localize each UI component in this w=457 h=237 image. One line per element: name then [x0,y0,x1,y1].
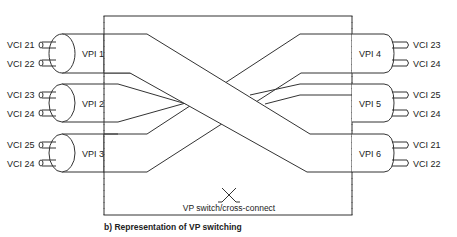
right-vci-label: VCI 21 [413,140,441,150]
left-vci-label: VCI 23 [7,90,35,100]
left-vci-label: VCI 25 [7,140,35,150]
cross-connect-x-icon [218,188,240,202]
right-vci-label: VCI 23 [413,40,441,50]
diagram-caption: b) Representation of VP switching [104,222,242,232]
left-vci-label: VCI 24 [7,159,35,169]
vpi-label: VPI 5 [359,99,381,109]
vp-switching-diagram: VCI 21 VCI 22 VCI 23 VCI 24 VCI 25 VCI 2… [0,0,457,237]
vpi-label: VPI 1 [82,49,104,59]
vpi-label: VPI 4 [359,49,381,59]
vpi-label: VPI 6 [359,149,381,159]
right-vci-label: VCI 25 [413,90,441,100]
right-vci-label: VCI 24 [413,109,441,119]
vpi-label: VPI 2 [82,99,104,109]
right-vci-label: VCI 22 [413,159,441,169]
left-vci-label: VCI 22 [7,59,35,69]
left-vci-label: VCI 21 [7,40,35,50]
vpi-label: VPI 3 [82,149,104,159]
right-vci-label: VCI 24 [413,59,441,69]
left-vci-label: VCI 24 [7,109,35,119]
switch-label: VP switch/cross-connect [183,203,276,213]
